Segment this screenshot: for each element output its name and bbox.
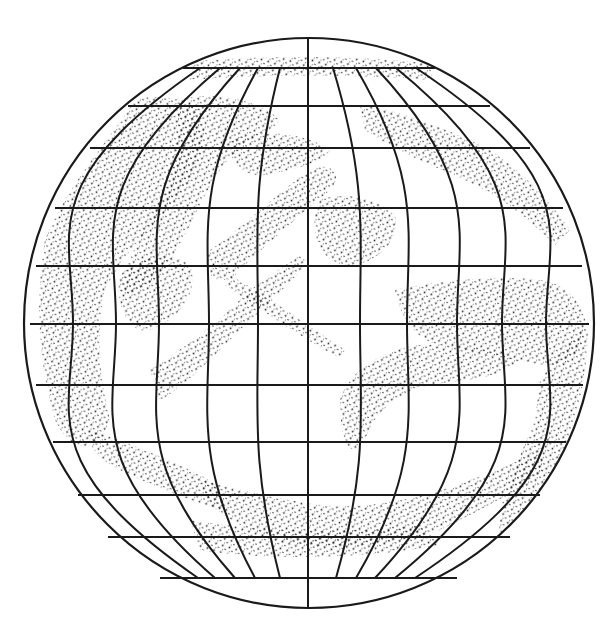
stipple-region-west-mid-blob	[119, 256, 193, 330]
globe-diagram	[0, 0, 603, 633]
stipple-region-east-center-blob	[315, 196, 396, 265]
stipple-region-south-east-arc	[340, 345, 520, 450]
globe-graticule-svg	[0, 0, 603, 633]
